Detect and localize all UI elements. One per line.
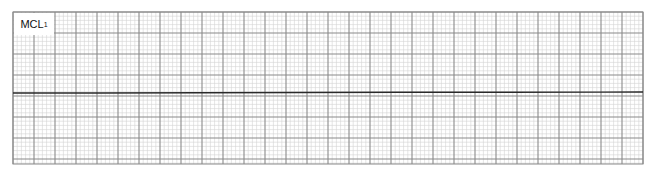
ecg-trace [13, 92, 643, 93]
ecg-strip [0, 0, 659, 176]
lead-label-text: MCL [20, 18, 43, 30]
lead-label: MCL1 [14, 13, 54, 35]
major-grid [13, 12, 643, 164]
lead-label-subscript: 1 [44, 21, 48, 28]
